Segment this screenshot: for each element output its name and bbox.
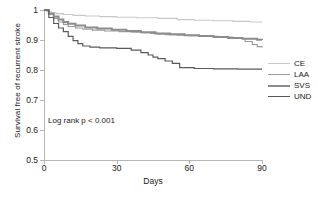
legend-swatch-icon: [268, 63, 290, 64]
y-tick-label: 0.5: [26, 156, 38, 165]
legend-label: SVS: [294, 82, 310, 90]
x-tick-label: 0: [42, 164, 47, 173]
y-tick-label: 0.6: [26, 126, 38, 135]
legend-item-und[interactable]: UND: [268, 91, 311, 102]
y-axis-title: Survival free of recurrent stroke: [13, 6, 22, 156]
legend-swatch-icon: [268, 74, 290, 75]
legend: CELAASVSUND: [268, 58, 311, 102]
legend-swatch-icon: [268, 85, 290, 87]
legend-label: UND: [294, 93, 311, 101]
legend-item-ce[interactable]: CE: [268, 58, 311, 69]
y-tick-label: 0.7: [26, 96, 38, 105]
legend-label: CE: [294, 60, 305, 68]
y-tick-label: 0.8: [26, 66, 38, 75]
survival-curves: [44, 10, 262, 160]
plot-area: 0.50.60.70.80.91 0306090: [44, 10, 262, 160]
logrank-annotation: Log rank p < 0.001: [48, 116, 115, 125]
curve-svs: [44, 10, 262, 40]
x-tick-label: 60: [185, 164, 194, 173]
x-axis-line: [44, 160, 262, 161]
curve-ce: [44, 10, 262, 22]
legend-item-svs[interactable]: SVS: [268, 80, 311, 91]
y-tick-label: 0.9: [26, 36, 38, 45]
legend-item-laa[interactable]: LAA: [268, 69, 311, 80]
x-tick-label: 90: [257, 164, 266, 173]
y-tick-label: 1: [33, 6, 38, 15]
curve-und: [44, 10, 262, 69]
legend-swatch-icon: [268, 96, 290, 97]
legend-label: LAA: [294, 71, 309, 79]
survival-curve-figure: Survival free of recurrent stroke 0.50.6…: [0, 0, 318, 202]
x-axis-title: Days: [44, 176, 262, 186]
x-tick-label: 30: [112, 164, 121, 173]
